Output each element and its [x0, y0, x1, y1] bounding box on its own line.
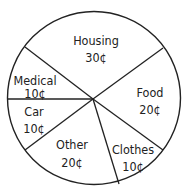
slice-label: Clothes	[112, 142, 154, 157]
slice-value: 20¢	[61, 155, 82, 170]
slice-value: 30¢	[85, 50, 106, 65]
slice-label: Other	[56, 137, 88, 152]
slice-value: 20¢	[139, 102, 160, 117]
slice-value: 10¢	[122, 159, 143, 174]
slice-label: Car	[24, 104, 44, 119]
slice-value: 10¢	[24, 86, 45, 101]
slice-value: 10¢	[23, 121, 44, 136]
slice-label: Food	[137, 85, 164, 100]
pie-chart: Housing 30¢ Food 20¢ Clothes 10¢ Other 2…	[0, 0, 190, 192]
slice-label: Housing	[73, 33, 119, 48]
